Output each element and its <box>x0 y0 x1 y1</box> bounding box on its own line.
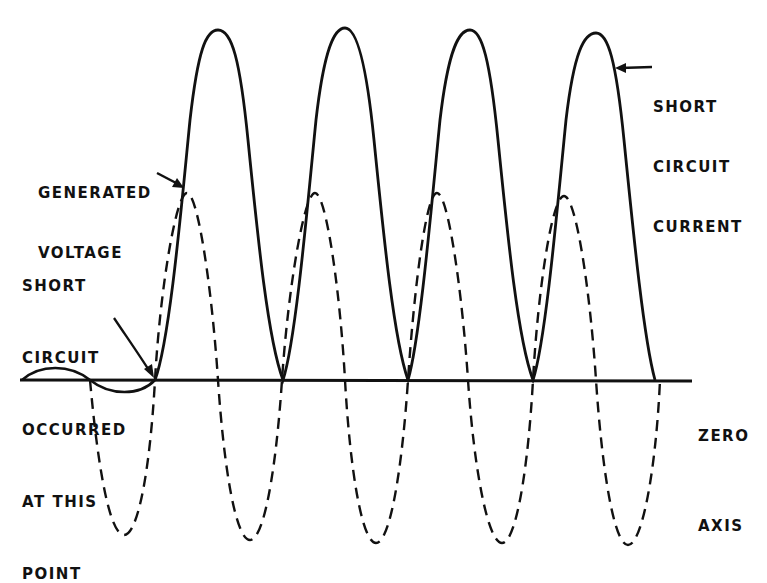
label-zero-axis: ZERO AXIS <box>698 361 749 571</box>
label-short-circuit-point: SHORT CIRCUIT OCCURRED AT THIS POINT <box>22 226 127 583</box>
label-line: ZERO <box>698 421 749 451</box>
label-line: CIRCUIT <box>22 346 127 370</box>
label-line: GENERATED <box>38 183 152 203</box>
generated-voltage-curve <box>90 193 660 545</box>
label-short-circuit-current: SHORT CIRCUIT CURRENT <box>653 57 743 257</box>
current-arrowhead-icon <box>615 63 626 73</box>
label-line: SHORT <box>22 274 127 298</box>
label-line: AT THIS <box>22 490 127 514</box>
label-line: CIRCUIT <box>653 157 743 177</box>
short-circuit-current-curve <box>155 28 655 380</box>
label-line: AXIS <box>698 511 749 541</box>
label-line: CURRENT <box>653 217 743 237</box>
label-line: SHORT <box>653 97 743 117</box>
label-line: POINT <box>22 562 127 583</box>
label-line: OCCURRED <box>22 418 127 442</box>
